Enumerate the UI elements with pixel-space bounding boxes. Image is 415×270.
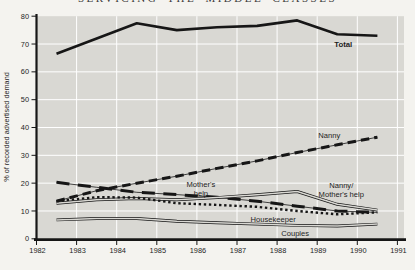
y-tick-label: 50 [21,95,29,104]
y-tick-label: 70 [21,40,29,49]
series-label-housekeeper: Housekeeper [251,215,297,224]
series-label-total: Total [334,40,352,49]
x-tick-label: 1987 [230,246,246,255]
y-tick-label: 80 [21,12,29,21]
series-label-couples: Couples [281,229,309,238]
y-tick-label: 10 [21,207,29,216]
y-axis-title: % of recorded advertised demand [2,72,11,182]
x-tick-label: 1984 [109,246,125,255]
x-tick-label: 1990 [350,246,366,255]
x-tick-label: 1982 [29,246,45,255]
y-tick-label: 40 [21,123,29,132]
series-label-nanny: Nanny [318,131,340,140]
x-tick-label: 1989 [310,246,326,255]
x-tick-label: 1983 [69,246,85,255]
y-tick-label: 60 [21,67,29,76]
y-tick-label: 20 [21,179,29,188]
x-tick-label: 1986 [190,246,206,255]
x-tick-label: 1988 [270,246,286,255]
y-tick-label: 30 [21,151,29,160]
book-page: SERVICING THE MIDDLE CLASSES 01020304050… [0,0,415,270]
x-tick-label: 1985 [150,246,166,255]
y-tick-label: 0 [25,234,29,243]
line-chart: 0102030405060708019821983198419851986198… [0,0,415,270]
x-tick-label: 1991 [390,246,406,255]
